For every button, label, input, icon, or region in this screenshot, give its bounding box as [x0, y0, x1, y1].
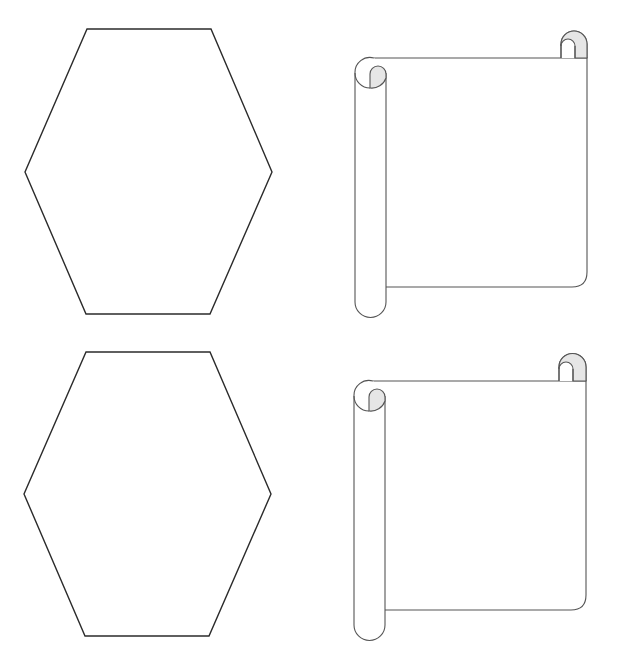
shapes-canvas [0, 0, 637, 663]
scroll-left-roll [355, 57, 386, 317]
scroll-sheet [374, 58, 587, 287]
hexagon-shape-1 [25, 29, 272, 314]
scroll-shape-2 [354, 354, 586, 641]
scroll-shape-1 [355, 31, 587, 317]
scroll-left-roll [354, 380, 385, 640]
scroll-sheet [373, 381, 586, 610]
hexagon-shape-2 [24, 352, 271, 636]
